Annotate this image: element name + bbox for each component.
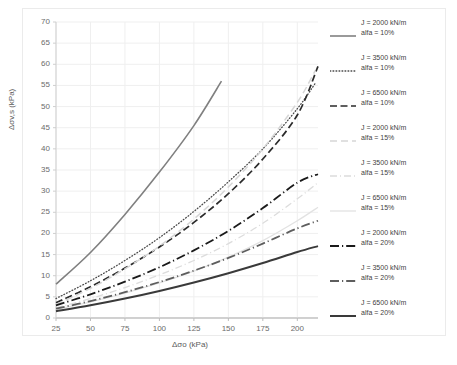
legend-swatch <box>330 234 356 238</box>
x-axis-tick-label: 125 <box>182 325 206 333</box>
legend-label: J = 6500 kN/malfa = 20% <box>361 298 406 318</box>
y-axis-tick-label: 30 <box>28 187 50 195</box>
chart-page: Δσv,s (kPa) Δσo (kPa) J = 2000 kN/malfa … <box>0 0 457 365</box>
y-axis-tick-label: 45 <box>28 124 50 132</box>
legend-swatch <box>330 304 356 308</box>
legend-item[interactable]: J = 2000 kN/malfa = 10% <box>330 18 454 50</box>
legend-label-line2: alfa = 20% <box>361 273 406 283</box>
y-axis-tick-label: 40 <box>28 145 50 153</box>
legend-label: J = 2000 kN/malfa = 20% <box>361 228 406 248</box>
legend-label-line2: alfa = 10% <box>361 63 406 73</box>
legend-item[interactable]: J = 6500 kN/malfa = 10% <box>330 88 454 120</box>
y-axis-tick-label: 55 <box>28 81 50 89</box>
legend-label-line2: alfa = 15% <box>361 168 406 178</box>
y-axis-tick-label: 50 <box>28 103 50 111</box>
y-axis-tick-label: 5 <box>28 293 50 301</box>
legend-item[interactable]: J = 3500 kN/malfa = 15% <box>330 158 454 190</box>
legend-label-line2: alfa = 15% <box>361 203 406 213</box>
legend-label-line1: J = 3500 kN/m <box>361 159 406 166</box>
x-axis-tick-label: 175 <box>251 325 275 333</box>
legend-label-line2: alfa = 10% <box>361 98 406 108</box>
legend-item[interactable]: J = 2000 kN/malfa = 15% <box>330 123 454 155</box>
x-axis-title-text: Δσo (kPa) <box>172 340 208 349</box>
y-axis-title: Δσv,s (kPa) <box>7 116 16 130</box>
legend-swatch <box>330 24 356 28</box>
x-axis-tick-label: 100 <box>147 325 171 333</box>
x-axis-title: Δσo (kPa) <box>120 340 260 349</box>
legend-label-line1: J = 3500 kN/m <box>361 264 406 271</box>
y-axis-tick-label: 60 <box>28 60 50 68</box>
chart-legend: J = 2000 kN/malfa = 10%J = 3500 kN/malfa… <box>330 18 454 333</box>
legend-label-line1: J = 3500 kN/m <box>361 54 406 61</box>
legend-swatch <box>330 59 356 63</box>
legend-label: J = 6500 kN/malfa = 10% <box>361 88 406 108</box>
y-axis-tick-label: 10 <box>28 272 50 280</box>
legend-label: J = 2000 kN/malfa = 15% <box>361 123 406 143</box>
legend-swatch <box>330 199 356 203</box>
legend-label-line2: alfa = 20% <box>361 238 406 248</box>
legend-label-line2: alfa = 10% <box>361 28 406 38</box>
legend-label-line1: J = 2000 kN/m <box>361 19 406 26</box>
legend-swatch <box>330 164 356 168</box>
x-axis-tick-label: 200 <box>285 325 309 333</box>
legend-label: J = 6500 kN/malfa = 15% <box>361 193 406 213</box>
legend-label: J = 3500 kN/malfa = 20% <box>361 263 406 283</box>
y-axis-title-text: Δσv,s (kPa) <box>7 116 16 130</box>
y-axis-tick-label: 70 <box>28 18 50 26</box>
y-axis-tick-label: 35 <box>28 166 50 174</box>
legend-item[interactable]: J = 6500 kN/malfa = 20% <box>330 298 454 330</box>
y-axis-tick-label: 25 <box>28 208 50 216</box>
legend-item[interactable]: J = 2000 kN/malfa = 20% <box>330 228 454 260</box>
legend-swatch <box>330 269 356 273</box>
legend-label: J = 3500 kN/malfa = 15% <box>361 158 406 178</box>
legend-label: J = 2000 kN/malfa = 10% <box>361 18 406 38</box>
x-axis-tick-label: 75 <box>113 325 137 333</box>
legend-label-line2: alfa = 20% <box>361 308 406 318</box>
legend-swatch <box>330 94 356 98</box>
y-axis-tick-label: 0 <box>28 314 50 322</box>
legend-item[interactable]: J = 3500 kN/malfa = 10% <box>330 53 454 85</box>
legend-label-line1: J = 6500 kN/m <box>361 299 406 306</box>
x-axis-tick-label: 50 <box>78 325 102 333</box>
legend-label-line1: J = 6500 kN/m <box>361 194 406 201</box>
legend-label-line2: alfa = 15% <box>361 133 406 143</box>
legend-label: J = 3500 kN/malfa = 10% <box>361 53 406 73</box>
legend-item[interactable]: J = 3500 kN/malfa = 20% <box>330 263 454 295</box>
y-axis-tick-label: 15 <box>28 251 50 259</box>
legend-label-line1: J = 2000 kN/m <box>361 124 406 131</box>
legend-label-line1: J = 6500 kN/m <box>361 89 406 96</box>
legend-swatch <box>330 129 356 133</box>
legend-label-line1: J = 2000 kN/m <box>361 229 406 236</box>
x-axis-tick-label: 25 <box>44 325 68 333</box>
y-axis-tick-label: 20 <box>28 229 50 237</box>
x-axis-tick-label: 150 <box>216 325 240 333</box>
y-axis-tick-label: 65 <box>28 39 50 47</box>
legend-item[interactable]: J = 6500 kN/malfa = 15% <box>330 193 454 225</box>
